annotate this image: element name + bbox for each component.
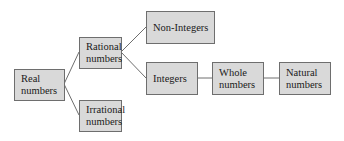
node-label: Natural numbers <box>286 67 322 91</box>
node-irrational-numbers: Irrational numbers <box>79 100 122 132</box>
edge-rational-noninteger <box>121 27 146 52</box>
node-label: Whole numbers <box>219 67 255 91</box>
node-rational-numbers: Rational numbers <box>79 37 122 69</box>
node-label: Integers <box>153 73 187 85</box>
node-natural-numbers: Natural numbers <box>279 62 331 95</box>
node-integers: Integers <box>146 62 198 95</box>
edge-rational-integers <box>121 52 146 78</box>
edge-real-irrational <box>64 84 79 115</box>
edge-real-rational <box>64 52 79 84</box>
node-label: Irrational numbers <box>86 104 125 128</box>
node-label: Real numbers <box>21 73 57 97</box>
node-non-integers: Non-Integers <box>146 11 215 44</box>
node-real-numbers: Real numbers <box>14 69 65 101</box>
node-label: Rational numbers <box>86 41 122 65</box>
node-whole-numbers: Whole numbers <box>212 62 264 95</box>
node-label: Non-Integers <box>153 22 208 34</box>
